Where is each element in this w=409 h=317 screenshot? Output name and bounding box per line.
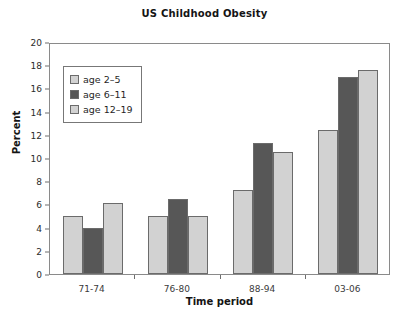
x-tick-label: 03-06	[334, 284, 360, 294]
legend-label: age 6–11	[83, 89, 127, 100]
x-tick-mark	[305, 275, 306, 279]
legend-item: age 6–11	[70, 87, 133, 102]
y-tick-label: 12	[31, 131, 42, 141]
y-tick-label: 2	[36, 247, 42, 257]
legend-item: age 2–5	[70, 72, 133, 87]
bar	[188, 216, 208, 274]
x-tick-mark	[134, 275, 135, 279]
chart-figure: US Childhood Obesity Percent 02468101214…	[0, 0, 409, 317]
bar	[318, 130, 338, 274]
bar	[168, 199, 188, 274]
bar-group	[318, 44, 378, 274]
chart-legend: age 2–5age 6–11age 12–19	[63, 66, 142, 123]
legend-swatch-icon	[70, 75, 79, 84]
y-tick-label: 16	[31, 84, 42, 94]
y-tick-label: 14	[31, 108, 42, 118]
y-tick-label: 0	[36, 270, 42, 280]
x-tick-mark	[220, 275, 221, 279]
bar	[103, 203, 123, 274]
bar-group	[148, 44, 208, 274]
x-axis-title: Time period	[49, 296, 390, 307]
chart-title: US Childhood Obesity	[0, 8, 409, 19]
bar	[273, 152, 293, 274]
y-tick-label: 20	[31, 38, 42, 48]
bar	[233, 190, 253, 274]
y-tick-label: 10	[31, 154, 42, 164]
legend-swatch-icon	[70, 105, 79, 114]
bar	[358, 70, 378, 274]
legend-label: age 2–5	[83, 74, 121, 85]
legend-swatch-icon	[70, 90, 79, 99]
y-tick-label: 4	[36, 224, 42, 234]
x-tick-label: 76-80	[164, 284, 190, 294]
y-tick-label: 6	[36, 200, 42, 210]
bar	[83, 228, 103, 274]
bar-group	[233, 44, 293, 274]
x-tick-label: 88-94	[249, 284, 275, 294]
bar	[338, 77, 358, 274]
x-tick-label: 71-74	[79, 284, 105, 294]
bar	[148, 216, 168, 274]
y-tick-label: 18	[31, 61, 42, 71]
y-axis-ticks: 02468101214161820	[0, 43, 49, 275]
legend-label: age 12–19	[83, 104, 133, 115]
y-tick-label: 8	[36, 177, 42, 187]
bar	[63, 216, 83, 274]
legend-item: age 12–19	[70, 102, 133, 117]
bar	[253, 143, 273, 274]
